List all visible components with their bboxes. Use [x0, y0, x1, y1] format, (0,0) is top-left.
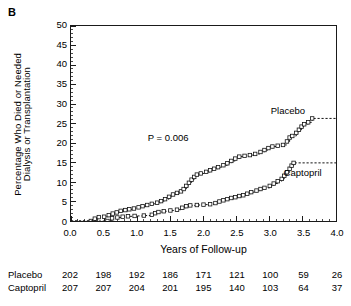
- data-point-marker: [162, 210, 165, 213]
- at-risk-value: 195: [196, 281, 212, 294]
- at-risk-value: 192: [129, 268, 145, 281]
- data-point-marker: [242, 194, 245, 197]
- data-point-marker: [115, 211, 118, 214]
- data-point-marker: [181, 206, 184, 209]
- at-risk-value: 171: [196, 268, 212, 281]
- y-tick-label: 10: [56, 178, 67, 188]
- data-point-marker: [128, 208, 131, 211]
- y-tick-label: 15: [56, 158, 67, 168]
- data-point-marker: [243, 154, 246, 157]
- p-value-annotation: P = 0.006: [148, 133, 189, 143]
- data-point-marker: [276, 179, 279, 182]
- data-point-marker: [119, 209, 122, 212]
- x-tick-label: 0.0: [63, 228, 76, 238]
- data-point-marker: [195, 173, 198, 176]
- data-point-marker: [167, 195, 170, 198]
- data-point-marker: [292, 161, 295, 164]
- data-point-marker: [226, 162, 229, 165]
- at-risk-value: 204: [129, 281, 145, 294]
- data-point-marker: [226, 197, 229, 200]
- data-point-marker: [132, 207, 135, 210]
- data-point-marker: [249, 190, 252, 193]
- data-point-marker: [238, 155, 241, 158]
- at-risk-value: 64: [298, 281, 309, 294]
- data-point-marker: [106, 219, 109, 221]
- at-risk-value: 100: [262, 268, 278, 281]
- data-point-marker: [253, 152, 256, 155]
- data-point-marker: [276, 144, 279, 147]
- data-point-marker: [212, 167, 215, 170]
- x-tick-label: 4.0: [330, 228, 343, 238]
- at-risk-row-label: Captopril: [8, 281, 46, 294]
- data-point-marker: [121, 215, 124, 218]
- x-tick-label: 3.0: [264, 228, 277, 238]
- at-risk-value: 198: [95, 268, 111, 281]
- at-risk-value: 186: [162, 268, 178, 281]
- data-point-marker: [195, 203, 198, 206]
- data-point-marker: [259, 150, 262, 153]
- data-point-marker: [199, 172, 202, 175]
- data-point-marker: [230, 159, 233, 162]
- data-point-marker: [169, 209, 172, 212]
- y-tick-label: 40: [56, 60, 67, 70]
- plot-area: P = 0.006 Placebo Captopril: [70, 25, 337, 222]
- data-point-marker: [272, 182, 275, 185]
- x-tick-label: 0.5: [97, 228, 110, 238]
- x-axis-title: Years of Follow-up: [70, 244, 337, 255]
- data-point-marker: [102, 215, 105, 218]
- data-point-marker: [204, 170, 207, 173]
- y-tick-label: 50: [56, 20, 67, 30]
- data-point-marker: [111, 212, 114, 215]
- at-risk-value: 202: [62, 268, 78, 281]
- data-point-marker: [142, 214, 145, 217]
- at-risk-value: 207: [95, 281, 111, 294]
- data-point-marker: [259, 187, 262, 190]
- x-tick-label: 2.5: [230, 228, 243, 238]
- data-point-marker: [171, 193, 174, 196]
- data-point-marker: [230, 196, 233, 199]
- data-point-marker: [189, 204, 192, 207]
- y-axis-title-line-2: Dialysis or Transplantation: [22, 67, 32, 181]
- data-point-marker: [263, 148, 266, 151]
- at-risk-value: 26: [332, 268, 343, 281]
- data-point-marker: [248, 153, 251, 156]
- data-point-marker: [159, 199, 162, 202]
- data-point-marker: [163, 197, 166, 200]
- data-point-marker: [234, 157, 237, 160]
- at-risk-value: 59: [298, 268, 309, 281]
- data-point-marker: [263, 186, 266, 189]
- data-point-marker: [116, 216, 119, 219]
- at-risk-row: Captopril2072072042011951401036437: [0, 281, 351, 294]
- data-point-marker: [97, 215, 100, 218]
- y-tick-label: 0: [62, 217, 67, 227]
- data-point-marker: [306, 121, 309, 124]
- y-axis-title: Percentage Who Died or Needed Dialysis o…: [0, 18, 44, 230]
- y-axis-tick-labels: 05101520253035404550: [44, 18, 67, 230]
- data-point-marker: [185, 204, 188, 207]
- x-tick-label: 3.5: [297, 228, 310, 238]
- data-point-marker: [310, 117, 313, 120]
- y-tick-label: 45: [56, 40, 67, 50]
- y-tick-label: 5: [62, 198, 67, 208]
- at-risk-value: 103: [262, 281, 278, 294]
- data-point-marker: [255, 189, 258, 192]
- series-markers-captopril: [106, 161, 296, 221]
- data-point-marker: [238, 194, 241, 197]
- data-point-marker: [137, 206, 140, 209]
- data-point-marker: [155, 201, 158, 204]
- data-point-marker: [291, 134, 294, 137]
- data-point-marker: [145, 203, 148, 206]
- y-tick-label: 20: [56, 138, 67, 148]
- data-point-marker: [93, 217, 96, 220]
- at-risk-row: Placebo2021981921861711211005926: [0, 268, 351, 281]
- at-risk-value: 201: [162, 281, 178, 294]
- data-point-marker: [222, 163, 225, 166]
- x-tick-label: 2.0: [197, 228, 210, 238]
- data-point-marker: [302, 123, 305, 126]
- data-point-marker: [208, 202, 211, 205]
- data-point-marker: [157, 210, 160, 213]
- figure-panel-b: B Percentage Who Died or Needed Dialysis…: [0, 0, 351, 306]
- data-point-marker: [281, 143, 284, 146]
- data-point-marker: [268, 184, 271, 187]
- data-point-marker: [110, 217, 113, 220]
